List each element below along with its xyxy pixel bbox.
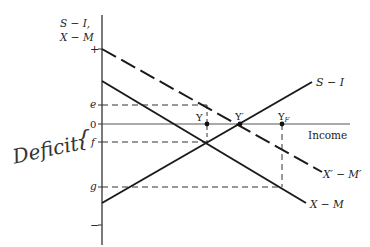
- y-axis-label-line2: X − M: [59, 31, 94, 43]
- label-y: Y: [195, 112, 203, 123]
- curve-x-prime-minus-m-prime: [102, 49, 322, 172]
- label-s-minus-i: S − I: [316, 76, 345, 89]
- tick-label-plus: +: [90, 43, 99, 56]
- economics-diagram: S − I, X − M + e 0 f g − S − I X′ − M′ X…: [0, 0, 370, 247]
- tick-label-zero: 0: [90, 119, 96, 130]
- x-axis-label: Income: [308, 129, 347, 141]
- point-y-prime: [238, 122, 243, 127]
- tick-label-minus: −: [90, 219, 99, 232]
- tick-label-f: f: [90, 136, 97, 148]
- label-y-f: YF: [277, 111, 291, 124]
- label-x-minus-m: X − M: [309, 198, 344, 210]
- label-x-prime-minus-m-prime: X′ − M′: [322, 168, 362, 180]
- y-axis-label-line1: S − I,: [60, 17, 90, 29]
- label-y-f-sub: F: [284, 116, 291, 124]
- handwritten-deficit: Deficit: [9, 131, 81, 169]
- tick-label-e: e: [90, 98, 96, 110]
- label-y-prime: Y′: [234, 111, 245, 122]
- handwritten-brace: {: [76, 126, 90, 151]
- point-y: [205, 122, 210, 127]
- tick-label-g: g: [90, 180, 97, 192]
